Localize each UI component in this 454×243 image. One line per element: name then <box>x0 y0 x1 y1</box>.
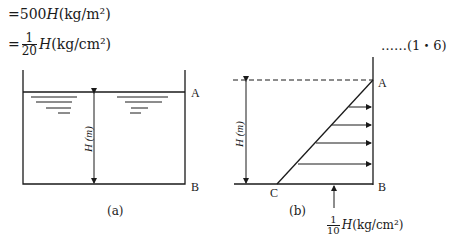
figure-b-label-a: A <box>378 76 387 90</box>
water-ripple-icon <box>31 97 168 113</box>
figure-a-height-label: H (m) <box>82 126 95 153</box>
figure-a-tank <box>23 70 185 184</box>
figure-a-label-a: A <box>191 86 200 100</box>
pressure-var: H <box>342 218 352 232</box>
figure-b-caption: (b) <box>289 204 306 218</box>
figure-b-label-c: C <box>270 186 278 200</box>
figure-b-diagram <box>233 57 373 208</box>
pressure-unit: (kg/cm²) <box>352 218 403 232</box>
figure-a-caption: (a) <box>107 204 124 218</box>
pressure-slope-line <box>277 80 373 184</box>
pressure-fraction: 110 <box>327 215 340 236</box>
figure-b-pressure-label: 110H(kg/cm²) <box>325 215 403 236</box>
diagram-canvas: A B H (m) A B C H (m) <box>0 0 454 243</box>
figure-a-label-b: B <box>191 180 199 194</box>
figure-b-label-b: B <box>378 180 386 194</box>
figure-b-height-label: H (m) <box>233 121 246 148</box>
